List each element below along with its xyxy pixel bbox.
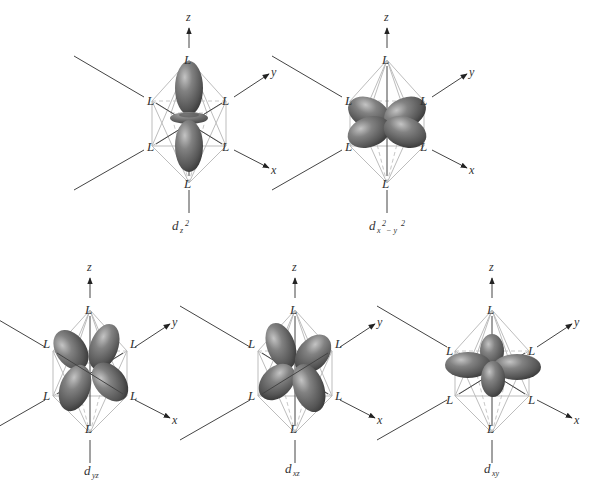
y-axis-label: y xyxy=(468,65,475,79)
ligand-back-right: L xyxy=(334,336,342,351)
ligand-front-right: L xyxy=(527,392,535,407)
x-axis-label: x xyxy=(270,163,277,177)
d-orbitals-figure: z y x L L L L L L d z 2 z y x L L L L L … xyxy=(0,0,596,492)
caption-dxy: d xy xyxy=(484,461,500,478)
svg-text:2: 2 xyxy=(185,219,189,228)
z-axis-label: z xyxy=(86,260,92,274)
ligand-top: L xyxy=(381,52,389,67)
svg-text:d: d xyxy=(369,218,376,233)
ligand-front-right: L xyxy=(334,388,342,403)
svg-text:d: d xyxy=(84,463,91,478)
caption-dyz: d yz xyxy=(84,463,100,480)
coordinate-axes xyxy=(74,28,269,213)
caption-dx2-y2: d x 2 − y 2 xyxy=(369,218,405,235)
dz2-orbital xyxy=(170,61,208,172)
y-axis-label: y xyxy=(376,315,383,329)
ligand-back-right: L xyxy=(527,343,535,358)
ligand-bottom: L xyxy=(486,421,494,436)
y-axis-label: y xyxy=(270,65,277,79)
ligand-bottom: L xyxy=(84,421,92,436)
ligand-top: L xyxy=(289,302,297,317)
ligand-front-right: L xyxy=(129,388,137,403)
caption-dz2: d z 2 xyxy=(172,218,189,235)
z-axis-label: z xyxy=(291,260,297,274)
ligand-front-left: L xyxy=(42,388,50,403)
panel-dyz: z y x L L L L L L d yz xyxy=(0,260,178,480)
ligand-front-left: L xyxy=(247,388,255,403)
caption-dxz: d xz xyxy=(285,461,301,478)
ligand-bottom: L xyxy=(381,176,389,191)
x-axis-label: x xyxy=(171,413,178,427)
panel-dxy: z y x L L L L L L d xy xyxy=(377,260,580,478)
ligand-front-left: L xyxy=(146,139,154,154)
svg-text:xy: xy xyxy=(491,469,500,478)
dxy-orbital xyxy=(445,334,541,397)
ligand-back-left: L xyxy=(247,336,255,351)
svg-text:2: 2 xyxy=(401,219,405,228)
svg-text:x: x xyxy=(376,226,381,235)
x-axis-label: x xyxy=(468,163,475,177)
z-axis-label: z xyxy=(185,10,191,24)
ligand-back-right: L xyxy=(129,336,137,351)
ligand-back-left: L xyxy=(344,93,352,108)
panel-dx2-y2: z y x L L L L L L d x 2 − y 2 xyxy=(272,10,475,235)
z-axis-label: z xyxy=(383,10,389,24)
ligand-bottom: L xyxy=(289,421,297,436)
z-axis-label: z xyxy=(488,260,494,274)
svg-text:xz: xz xyxy=(292,469,301,478)
ligand-back-right: L xyxy=(221,93,229,108)
ligand-back-left: L xyxy=(42,336,50,351)
ligand-front-left: L xyxy=(445,392,453,407)
svg-text:d: d xyxy=(285,461,292,476)
ligand-front-right: L xyxy=(419,139,427,154)
panel-dz2: z y x L L L L L L d z 2 xyxy=(74,10,277,235)
panel-dxz: z y x L L L L L L d xz xyxy=(180,260,383,478)
ligand-front-left: L xyxy=(344,139,352,154)
x-axis-label: x xyxy=(573,413,580,427)
svg-text:z: z xyxy=(179,226,184,235)
ligand-top: L xyxy=(486,302,494,317)
ligand-bottom: L xyxy=(183,176,191,191)
svg-text:d: d xyxy=(172,218,179,233)
svg-text:d: d xyxy=(484,461,491,476)
ligand-top: L xyxy=(183,52,191,67)
y-axis-label: y xyxy=(171,315,178,329)
svg-text:− y: − y xyxy=(386,226,397,235)
ligand-top: L xyxy=(84,302,92,317)
ligand-front-right: L xyxy=(221,139,229,154)
ligand-back-left: L xyxy=(445,343,453,358)
svg-text:yz: yz xyxy=(91,471,100,480)
ligand-back-left: L xyxy=(146,93,154,108)
ligand-back-right: L xyxy=(419,93,427,108)
y-axis-label: y xyxy=(573,315,580,329)
x-axis-label: x xyxy=(376,413,383,427)
